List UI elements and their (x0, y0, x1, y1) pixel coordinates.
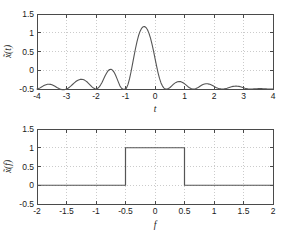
tick-label: -2 (92, 91, 100, 101)
tick-label: 0 (153, 91, 158, 101)
tick-label: -0.5 (19, 199, 34, 209)
tick-label: 0 (29, 65, 34, 75)
tick-label: 1.5 (22, 9, 34, 19)
top-panel-time-domain: -4 -3 -2 -1 0 1 2 3 4 -0.5 0 0.5 1 1.5 t… (3, 9, 276, 114)
top-panel-xaxis-label: t (154, 104, 157, 114)
bottom-panel-xticklabels: -2 -1.5 -1 -0.5 0 0.5 1 1.5 2 (33, 206, 275, 216)
bottom-panel-yticklabels: -0.5 0 0.5 1 1.5 (19, 124, 34, 209)
tick-label: 1 (29, 28, 34, 38)
top-panel-xticklabels: -4 -3 -2 -1 0 1 2 3 4 (33, 91, 275, 101)
tick-label: 1 (182, 91, 187, 101)
top-panel-yticklabels: -0.5 0 0.5 1 1.5 (19, 9, 34, 94)
tick-label: 0 (153, 206, 158, 216)
tick-label: -1 (122, 91, 130, 101)
tick-label: 4 (271, 91, 276, 101)
tick-label: 0 (29, 180, 34, 190)
tick-label: 1.5 (22, 124, 34, 134)
sinc-rect-fourier-pair-figure: -4 -3 -2 -1 0 1 2 3 4 -0.5 0 0.5 1 1.5 t… (0, 0, 286, 236)
tick-label: -2 (33, 206, 41, 216)
tick-label: -0.5 (118, 206, 133, 216)
figure-canvas: -4 -3 -2 -1 0 1 2 3 4 -0.5 0 0.5 1 1.5 t… (0, 0, 286, 236)
tick-label: -1 (92, 206, 100, 216)
tick-label: 0.5 (22, 162, 34, 172)
tick-label: 2 (212, 91, 217, 101)
tick-label: 0.5 (22, 47, 34, 57)
bottom-panel-xaxis-label: f (154, 220, 158, 230)
tick-label: -1.5 (59, 206, 74, 216)
tick-label: -3 (63, 91, 71, 101)
tick-label: 1 (212, 206, 217, 216)
tick-label: -0.5 (19, 84, 34, 94)
top-panel-yaxis-label: x̃(t) (3, 45, 14, 59)
tick-label: 3 (241, 91, 246, 101)
tick-label: -4 (33, 91, 41, 101)
tick-label: 0.5 (179, 206, 191, 216)
tick-label: 2 (271, 206, 276, 216)
tick-label: 1.5 (238, 206, 250, 216)
bottom-panel-frequency-domain: -2 -1.5 -1 -0.5 0 0.5 1 1.5 2 -0.5 0 0.5… (3, 124, 276, 230)
bottom-panel-yaxis-label: x̃(f) (3, 160, 14, 174)
tick-label: 1 (29, 143, 34, 153)
